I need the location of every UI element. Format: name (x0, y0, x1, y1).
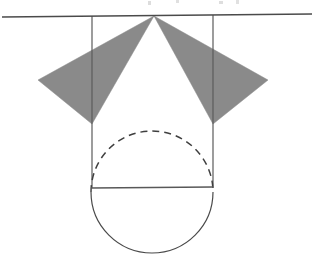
geometry-figure (0, 0, 322, 264)
figure-background (0, 0, 322, 264)
figure-canvas (0, 0, 322, 264)
horizontal-diameter-line (91, 187, 213, 188)
